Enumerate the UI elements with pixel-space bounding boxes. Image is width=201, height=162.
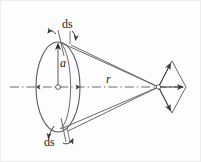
figure-border — [1, 1, 201, 162]
label-ds-bottom: ds — [44, 136, 55, 148]
field-point-vectors — [156, 61, 186, 113]
label-radius-a: a — [60, 57, 66, 69]
label-ds-top: ds — [62, 18, 73, 30]
label-distance-r: r — [106, 73, 111, 85]
loop-center-point — [56, 85, 61, 90]
diagram-canvas: ds ds a r — [0, 0, 201, 162]
diagram-svg — [0, 0, 201, 162]
